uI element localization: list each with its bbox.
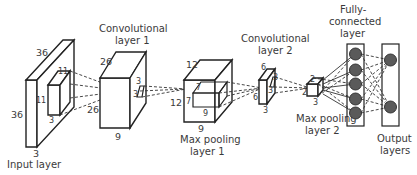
output-label-line1: Output xyxy=(377,133,412,144)
fc-node xyxy=(350,48,362,60)
fc-label-line2: connected xyxy=(329,16,381,27)
pool2-height-label: 2 xyxy=(302,88,307,97)
conv1-width-label: 26 xyxy=(100,56,112,67)
pool1-depth-label: 9 xyxy=(198,123,204,134)
conv2-height-label: 6 xyxy=(253,93,258,102)
fc-label-line3: layer xyxy=(340,28,366,39)
fc-node xyxy=(350,78,362,90)
conv1-depth-label: 9 xyxy=(115,131,121,142)
output-node xyxy=(385,101,397,113)
input-kernel-depth-label: 3 xyxy=(49,116,54,125)
fc-node xyxy=(350,107,362,119)
pool1-kernel-depth-label: 9 xyxy=(203,109,208,118)
conv1-label-line2: layer 1 xyxy=(115,35,150,46)
pool1-height-label: 12 xyxy=(170,97,182,108)
output-label-line2: layers xyxy=(380,145,410,156)
pool1-label-line2: layer 1 xyxy=(190,146,225,157)
input-depth-label: 3 xyxy=(33,148,39,159)
input-width-label: 36 xyxy=(36,47,48,58)
connector-conv1-pool1 xyxy=(140,86,186,97)
conv2-label-line1: Convolutional xyxy=(241,33,310,44)
conv2-label-line2: layer 2 xyxy=(258,45,293,56)
input-layer xyxy=(26,40,74,147)
fc-layer xyxy=(347,44,364,126)
pool1-kernel-width-label: 7 xyxy=(196,83,201,92)
conv1-height-label: 26 xyxy=(87,104,99,115)
pool2-label-line2: layer 2 xyxy=(305,125,340,136)
output-layer xyxy=(382,44,399,126)
input-kernel-height-label: 11 xyxy=(36,96,46,105)
pool2-width-label: 2 xyxy=(310,75,315,84)
conv2-width-label: 6 xyxy=(261,63,266,72)
cnn-diagram: 36 36 3 11 11 3 Input layer Convolutiona… xyxy=(0,0,417,175)
fc-node xyxy=(350,93,362,105)
conv2-depth-label: 3 xyxy=(263,106,268,115)
input-layer-label: Input layer xyxy=(7,159,62,170)
fc-label-line1: Fully- xyxy=(340,4,367,15)
conv1-kernel-height-label: 3 xyxy=(133,90,138,99)
pool1-kernel-height-label: 7 xyxy=(186,97,191,106)
pool2-depth-label: 3 xyxy=(313,98,318,107)
pool1-label-line1: Max pooling xyxy=(180,134,241,145)
conv1-label-line1: Convolutional xyxy=(99,23,168,34)
output-node xyxy=(385,54,397,66)
conv1-kernel-width-label: 3 xyxy=(136,77,141,86)
input-height-label: 36 xyxy=(11,109,23,120)
input-kernel-width-label: 11 xyxy=(58,67,68,76)
conv2-kernel-height-label: 3 xyxy=(268,86,273,95)
pool1-width-label: 12 xyxy=(186,59,198,70)
fc-node xyxy=(350,64,362,76)
